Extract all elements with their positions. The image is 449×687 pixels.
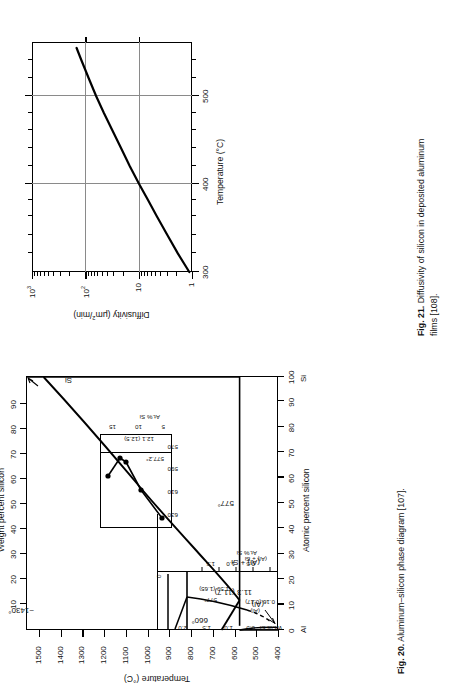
fig21-yaxis-title: Diffusivity (μm2/min) [73, 310, 149, 321]
inset-right-eutectic-temp: 577.2° [146, 456, 164, 462]
inset-right-at-label-10: 10 [135, 424, 142, 430]
inset-left-phase-al: (Al) [250, 608, 260, 614]
fig20-region-label-alsi: (Al) + Si [231, 558, 260, 566]
fig21-xtick-label-500: 500 [202, 90, 210, 103]
inset-right-temp-label-590: 590 [168, 466, 178, 472]
fig21-ytick-label-100: 102 [81, 286, 91, 298]
fig20-inset-left: 0.5 1.0 1.5 2.0 Wt.% Si 577° 1.59 (1.65)… [157, 514, 278, 630]
figure-21-caption: Fig. 21. Diffusivity of silicon in depos… [416, 6, 442, 336]
figure-21-plot: 300 400 500 1 10 102 103 Temperature (°C… [24, 22, 239, 312]
fig20-xaxis-top-title: Weight percent silicon [0, 468, 6, 552]
figure-20: 400 500 600 700 800 900 1000 1100 1200 1… [0, 344, 449, 687]
fig21-xaxis-title: Temperature (°C) [215, 139, 225, 205]
fig20-caption-text: Aluminum–silicon phase diagram [107]. [396, 488, 406, 642]
fig21-caption-text: Diffusivity of silicon in deposited alum… [416, 139, 426, 304]
inset-left-wt-axis-title: Wt.% Si [260, 625, 282, 631]
scanned-book-page: 300 400 500 1 10 102 103 Temperature (°C… [0, 0, 449, 687]
fig20-annotation-eutectic-temp: 577° [217, 499, 234, 507]
inset-left-max-solubility: 1.59 (1.65) [199, 586, 229, 592]
inset-right-at-axis-title: At.% Si [140, 414, 160, 420]
inset-right-eutectic-comp: 12.1 (12.5) [124, 436, 154, 442]
inset-left-wt-label-10: 1.0 [224, 625, 233, 631]
figure-21: 300 400 500 1 10 102 103 Temperature (°C… [0, 0, 449, 344]
inset-left-low-solubility: 0.16 (0.17) [245, 599, 275, 605]
inset-left-wt-label-20: 2.0 [178, 625, 187, 631]
inset-right-temp-label-570: 570 [168, 444, 178, 450]
fig20-caption-number: Fig. 20. [396, 644, 406, 674]
inset-left-temp-label-0: 0 [156, 575, 162, 578]
inset-right-curves [100, 430, 176, 528]
inset-right-at-label-5: 5 [162, 424, 165, 430]
fig21-xtick-label-300: 300 [202, 266, 210, 279]
inset-right-at-label-15: 15 [109, 424, 116, 430]
inset-left-curves [157, 510, 282, 630]
fig21-caption-line2: films [108]. [429, 293, 439, 336]
fig21-ytick-label-10: 10 [135, 283, 143, 292]
fig20-annotation-melting-si: ~1430° [8, 606, 34, 614]
inset-left-eutectic-temp: 577° [204, 597, 217, 603]
inset-right-temp-label-610: 610 [168, 489, 178, 495]
figure-20-plot: 400 500 600 700 800 900 1000 1100 1200 1… [12, 356, 317, 676]
inset-left-at-axis-title: At.% Si [237, 550, 257, 556]
fig21-caption-line1: Fig. 21. Diffusivity of silicon in depos… [416, 139, 426, 336]
fig21-xtick-label-400: 400 [202, 178, 210, 191]
inset-left-wt-label-15: 1.5 [202, 625, 211, 631]
fig21-caption-number: Fig. 21. [416, 306, 426, 336]
inset-left-wt-label-05: 0.5 [246, 625, 255, 631]
fig21-ytick-label-1000: 103 [27, 286, 37, 298]
fig20-caption-line1: Fig. 20. Aluminum–silicon phase diagram … [396, 488, 406, 674]
figure-20-caption: Fig. 20. Aluminum–silicon phase diagram … [396, 364, 412, 674]
fig20-annotation-phase-si: Si [65, 376, 72, 384]
inset-left-at-label-15: 1.5 [206, 561, 215, 567]
inset-right-temp-label-630: 630 [168, 512, 178, 518]
fig20-inset-right: 570 590 610 630 5 10 15 At.% Si 577.2° 1… [100, 434, 172, 528]
fig21-ytick-label-1: 1 [188, 283, 196, 287]
